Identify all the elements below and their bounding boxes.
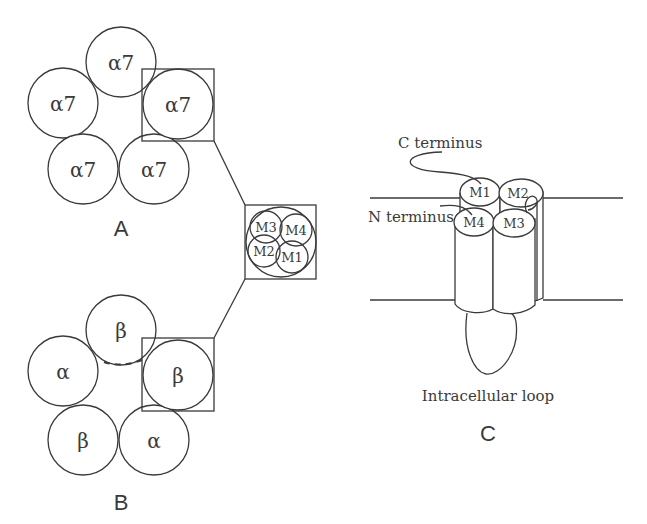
subunit-b-top-label: β [115,319,127,343]
n-terminus-label: N terminus [368,208,454,226]
panel-a: α7 α7 α7 α7 α7 A [28,27,214,241]
subunit-a-right-label: α7 [165,93,191,117]
subunit-b-left-label: α [56,360,70,384]
connector-bottom [214,279,245,338]
inset-m3-label: M3 [255,220,277,235]
subunit-a-top-label: α7 [108,51,134,75]
panel-b: β α β β α B [28,295,214,515]
subunit-b-right-label: β [172,364,184,388]
panel-a-label: A [114,216,129,241]
panel-c: M1 M2 M4 M3 C terminus N terminus Intrac… [368,134,623,446]
subunit-a-bottom-left-label: α7 [70,158,96,182]
helix-m3-label: M3 [503,216,525,231]
subunit-a-left-label: α7 [50,92,76,116]
intracellular-loop-label: Intracellular loop [422,387,554,405]
receptor-diagram: α7 α7 α7 α7 α7 A β α β β α B M3 M4 M2 M1 [0,0,647,524]
inset: M3 M4 M2 M1 [214,141,316,338]
intracellular-loop [466,313,517,374]
c-terminus-label: C terminus [398,134,482,152]
helix-m2-label: M2 [507,186,529,201]
helix-m4-label: M4 [463,215,485,230]
connector-top [214,141,245,205]
inset-m4-label: M4 [285,223,307,238]
helix-m1-label: M1 [469,185,491,200]
panel-c-label: C [480,421,496,446]
inset-m1-label: M1 [281,250,303,265]
inset-m2-label: M2 [253,244,275,259]
panel-b-label: B [114,490,129,515]
subunit-b-bottom-right-label: α [147,429,161,453]
subunit-a-bottom-right-label: α7 [141,158,167,182]
subunit-b-bottom-left-label: β [77,429,89,453]
